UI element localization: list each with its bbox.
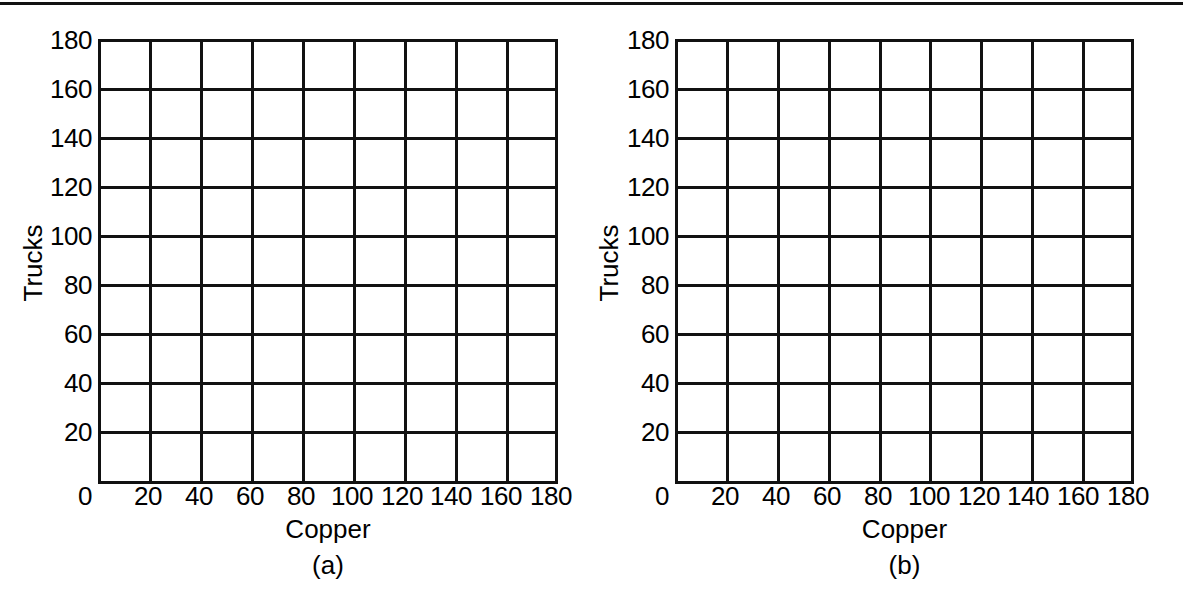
y-tick-label: 100 [627, 223, 669, 249]
gridline-vertical [506, 42, 509, 481]
gridline-vertical [455, 42, 458, 481]
y-tick-label: 120 [50, 174, 92, 200]
y-tick-label: 40 [64, 370, 92, 396]
gridline-horizontal [678, 333, 1131, 336]
y-tick-label: 80 [641, 272, 669, 298]
gridline-vertical [777, 42, 780, 481]
y-tick-label: 120 [627, 174, 669, 200]
y-tick-label: 20 [641, 419, 669, 445]
gridline-horizontal [101, 333, 555, 336]
x-axis-title-a: Copper [98, 516, 558, 542]
gridline-vertical [149, 42, 152, 481]
y-tick-label: 160 [50, 76, 92, 102]
y-tick-label: 20 [64, 419, 92, 445]
y-tick-label: 140 [627, 125, 669, 151]
gridline-horizontal [101, 284, 555, 287]
gridline-horizontal [101, 88, 555, 91]
gridline-horizontal [678, 382, 1131, 385]
gridline-vertical [1082, 42, 1085, 481]
y-tick-label: 160 [627, 76, 669, 102]
y-tick-label: 40 [641, 370, 669, 396]
gridline-horizontal [101, 137, 555, 140]
y-tick-label: 180 [627, 27, 669, 53]
y-tick-label: 140 [50, 125, 92, 151]
gridline-vertical [200, 42, 203, 481]
y-tick-label: 80 [64, 272, 92, 298]
gridline-vertical [929, 42, 932, 481]
panel-caption-a: (a) [98, 552, 558, 578]
gridline-vertical [302, 42, 305, 481]
gridline-vertical [879, 42, 882, 481]
gridline-horizontal [101, 431, 555, 434]
gridline-horizontal [678, 431, 1131, 434]
gridline-vertical [1031, 42, 1034, 481]
gridline-horizontal [101, 382, 555, 385]
gridline-horizontal [678, 88, 1131, 91]
gridline-horizontal [678, 284, 1131, 287]
gridline-horizontal [678, 137, 1131, 140]
gridline-vertical [404, 42, 407, 481]
y-tick-label: 0 [78, 483, 92, 509]
panel-a: 180 160 140 120 100 80 60 40 20 0 20 40 … [0, 0, 591, 598]
y-axis-title-a: Trucks [20, 208, 46, 318]
y-tick-label: 60 [641, 321, 669, 347]
gridline-horizontal [101, 186, 555, 189]
x-tick-label: 180 [1098, 483, 1158, 509]
gridline-horizontal [678, 186, 1131, 189]
gridline-vertical [251, 42, 254, 481]
panel-caption-b: (b) [675, 552, 1134, 578]
gridline-vertical [353, 42, 356, 481]
y-axis-title-b: Trucks [596, 208, 622, 318]
gridline-vertical [726, 42, 729, 481]
x-tick-label: 180 [521, 483, 581, 509]
y-tick-label: 0 [655, 483, 669, 509]
figure-container: 180 160 140 120 100 80 60 40 20 0 20 40 … [0, 0, 1183, 598]
x-axis-title-b: Copper [675, 516, 1134, 542]
gridline-horizontal [678, 235, 1131, 238]
plot-area-b [675, 39, 1134, 484]
y-tick-label: 60 [64, 321, 92, 347]
gridline-horizontal [101, 235, 555, 238]
plot-area-a [98, 39, 558, 484]
gridline-vertical [828, 42, 831, 481]
gridline-vertical [980, 42, 983, 481]
y-tick-label: 180 [50, 27, 92, 53]
panel-b: 180 160 140 120 100 80 60 40 20 0 20 40 … [592, 0, 1183, 598]
y-tick-label: 100 [50, 223, 92, 249]
